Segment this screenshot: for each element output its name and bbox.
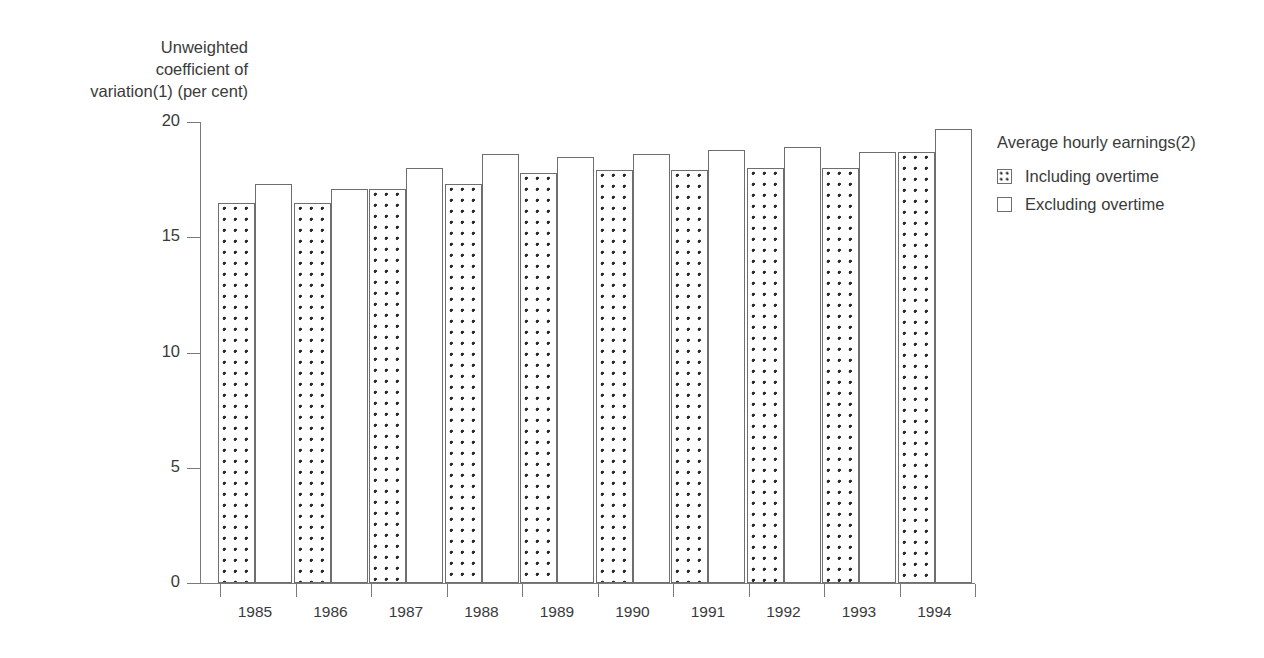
x-axis-tick	[598, 584, 599, 597]
x-axis-label-1987: 1987	[369, 603, 443, 621]
y-axis-title: Unweighted coefficient of variation(1) (…	[8, 36, 248, 102]
x-axis-label-1985: 1985	[218, 603, 292, 621]
legend-title: Average hourly earnings(2)	[997, 133, 1257, 152]
bar-1994-including-overtime	[898, 152, 935, 583]
legend-swatch-icon	[997, 197, 1012, 212]
bar-1992-excluding-overtime	[784, 147, 821, 583]
x-axis-tick	[975, 584, 976, 597]
y-axis-tick: 20	[187, 122, 200, 123]
x-axis-label-1988: 1988	[445, 603, 519, 621]
y-axis-tick: 5	[187, 468, 200, 469]
bar-1990-including-overtime	[596, 170, 633, 583]
x-axis-tick	[296, 584, 297, 597]
bar-chart-figure: Unweighted coefficient of variation(1) (…	[0, 0, 1264, 658]
bar-1987-excluding-overtime	[406, 168, 443, 583]
x-axis-tick	[673, 584, 674, 597]
legend-item-excluding-overtime[interactable]: Excluding overtime	[997, 195, 1257, 214]
bar-1985-excluding-overtime	[255, 184, 292, 583]
bar-1987-including-overtime	[369, 189, 406, 583]
y-axis-tick: 10	[187, 353, 200, 354]
y-axis-tick-label: 10	[162, 342, 180, 361]
x-axis-label-1992: 1992	[747, 603, 821, 621]
legend-item-label: Excluding overtime	[1025, 195, 1164, 214]
x-axis-tick	[900, 584, 901, 597]
bar-1991-including-overtime	[671, 170, 708, 583]
bar-1994-excluding-overtime	[935, 129, 972, 583]
x-axis-label-1990: 1990	[596, 603, 670, 621]
x-axis-tick	[749, 584, 750, 597]
x-axis-tick	[522, 584, 523, 597]
y-axis-tick-label: 0	[171, 572, 180, 591]
x-axis-label-1986: 1986	[294, 603, 368, 621]
x-axis-label-1991: 1991	[671, 603, 745, 621]
x-axis-label-1989: 1989	[520, 603, 594, 621]
bar-1993-excluding-overtime	[859, 152, 896, 583]
x-axis-label-1994: 1994	[898, 603, 972, 621]
bar-1990-excluding-overtime	[633, 154, 670, 583]
legend-item-including-overtime[interactable]: Including overtime	[997, 167, 1257, 186]
y-axis-tick: 0	[187, 583, 200, 584]
legend-swatch-icon	[997, 169, 1012, 184]
bar-1991-excluding-overtime	[708, 150, 745, 583]
y-axis-tick-label: 5	[171, 457, 180, 476]
bar-1992-including-overtime	[747, 168, 784, 583]
y-axis-tick-label: 15	[162, 226, 180, 245]
y-axis-line	[200, 122, 201, 583]
bar-1988-excluding-overtime	[482, 154, 519, 583]
bar-1989-excluding-overtime	[557, 157, 594, 583]
bar-1988-including-overtime	[445, 184, 482, 583]
x-axis-tick	[447, 584, 448, 597]
y-axis-tick: 15	[187, 237, 200, 238]
x-axis-tick	[824, 584, 825, 597]
plot-area: 05101520 1985198619871988198919901991199…	[200, 118, 990, 588]
x-axis-label-1993: 1993	[822, 603, 896, 621]
y-axis-tick-label: 20	[162, 111, 180, 130]
bar-1993-including-overtime	[822, 168, 859, 583]
chart-legend: Average hourly earnings(2) Including ove…	[997, 133, 1257, 223]
x-axis-tick	[371, 584, 372, 597]
legend-item-label: Including overtime	[1025, 167, 1159, 186]
legend-items: Including overtimeExcluding overtime	[997, 167, 1257, 214]
x-axis-line	[200, 583, 975, 584]
bar-1989-including-overtime	[520, 173, 557, 583]
x-axis-tick	[220, 584, 221, 597]
bar-1986-excluding-overtime	[331, 189, 368, 583]
bar-1985-including-overtime	[218, 203, 255, 583]
bar-1986-including-overtime	[294, 203, 331, 583]
